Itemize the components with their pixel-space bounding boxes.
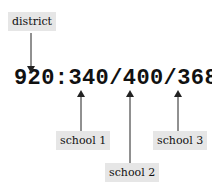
school1-label: school 1 (56, 131, 110, 150)
school2-label: school 2 (105, 163, 159, 182)
school3-arrow (174, 90, 182, 132)
school1-arrow (77, 90, 85, 132)
district-arrow (27, 33, 35, 73)
arrows (0, 0, 212, 188)
school3-label: school 3 (153, 131, 207, 150)
school2-arrow (126, 90, 134, 163)
